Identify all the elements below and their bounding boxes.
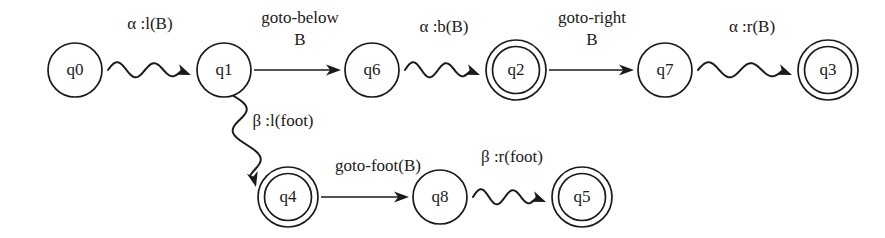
transition-q0-to-q1: α :l(B) bbox=[108, 14, 191, 77]
transition-q8-to-q5: β :r(foot) bbox=[473, 147, 546, 204]
state-node-q3[interactable]: q3 bbox=[798, 40, 858, 100]
transition-q7-to-q3: α :r(B) bbox=[698, 17, 792, 77]
transition-q1-to-q6: goto-belowB bbox=[254, 8, 341, 76]
transition-q6-to-q2: α :b(B) bbox=[405, 17, 480, 77]
transition-label: α :r(B) bbox=[729, 17, 775, 36]
state-label: q4 bbox=[280, 187, 298, 206]
state-node-q5[interactable]: q5 bbox=[552, 167, 612, 227]
transition-wavy-line bbox=[108, 62, 182, 77]
transition-label: β :l(foot) bbox=[252, 111, 313, 130]
transition-q4-to-q8: goto-foot(B) bbox=[321, 156, 421, 203]
state-label: q6 bbox=[364, 60, 381, 79]
transition-wavy-line bbox=[698, 62, 783, 77]
state-label: q8 bbox=[432, 187, 449, 206]
state-label: q3 bbox=[820, 60, 837, 79]
state-node-q6[interactable]: q6 bbox=[345, 43, 399, 97]
transition-arrowhead bbox=[175, 64, 191, 75]
state-label: q5 bbox=[574, 187, 591, 206]
transition-arrowhead bbox=[776, 64, 792, 75]
transition-label: goto-belowB bbox=[261, 8, 339, 49]
transition-label: goto-foot(B) bbox=[335, 156, 421, 175]
transition-wavy-line bbox=[473, 189, 537, 204]
state-label: q1 bbox=[216, 60, 233, 79]
state-node-q7[interactable]: q7 bbox=[638, 43, 692, 97]
transition-label: goto-rightB bbox=[558, 8, 626, 49]
transition-arrowhead bbox=[464, 64, 480, 75]
transition-label: β :r(foot) bbox=[481, 147, 543, 166]
state-label: q7 bbox=[657, 60, 675, 79]
transition-wavy-line bbox=[232, 95, 261, 175]
state-node-q0[interactable]: q0 bbox=[48, 43, 102, 97]
transition-label: α :l(B) bbox=[127, 14, 172, 33]
state-label: q0 bbox=[67, 60, 84, 79]
transition-label: α :b(B) bbox=[419, 17, 468, 36]
transition-q2-to-q7: goto-rightB bbox=[549, 8, 634, 76]
state-node-q1[interactable]: q1 bbox=[197, 43, 251, 97]
diagram-canvas: α :l(B)goto-belowBα :b(B)goto-rightBα :r… bbox=[0, 0, 885, 238]
state-node-q4[interactable]: q4 bbox=[258, 167, 318, 227]
transition-wavy-line bbox=[405, 62, 471, 77]
state-node-q8[interactable]: q8 bbox=[413, 170, 467, 224]
state-node-q2[interactable]: q2 bbox=[486, 40, 546, 100]
state-label: q2 bbox=[508, 60, 525, 79]
state-machine-diagram: α :l(B)goto-belowBα :b(B)goto-rightBα :r… bbox=[0, 0, 885, 238]
transition-arrowhead bbox=[530, 191, 546, 202]
